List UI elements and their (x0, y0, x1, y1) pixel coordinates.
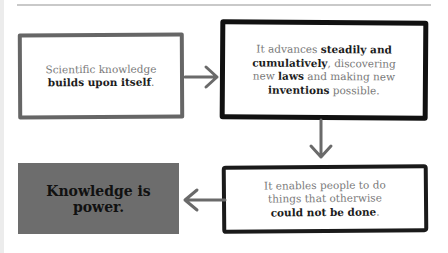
box4-text-1: Knowledge is (46, 183, 151, 199)
box3-period: . (376, 205, 379, 217)
box1-bold: builds upon itself (48, 76, 151, 89)
flow-box-knowledge-is-power: Knowledge is power. (18, 163, 179, 234)
box4-text-2: power. (73, 199, 124, 215)
box2-text-1: It advances (256, 43, 321, 55)
box2-bold-1: steadily and (321, 43, 392, 55)
box1-period: . (151, 76, 154, 88)
arrow-right-icon (184, 64, 220, 90)
flow-box-advances: It advances steadily and cumulatively, d… (220, 19, 429, 120)
box2-text-2: , discovering (327, 57, 395, 69)
box2-bold-3: laws (278, 70, 304, 82)
page-edge (0, 0, 4, 253)
box2-text-4: and making new (304, 70, 395, 83)
top-rule-divider (17, 4, 431, 6)
box1-text: Scientific knowledge (45, 62, 156, 75)
box2-bold-4: inventions (268, 83, 330, 95)
box3-text-2: things that otherwise (268, 192, 382, 205)
box2-bold-2: cumulatively (252, 56, 327, 69)
box3-bold: could not be done (271, 205, 377, 218)
box2-text-5: possible. (329, 84, 379, 96)
box2-text-3: new (253, 70, 278, 82)
box3-text-1: It enables people to do (264, 178, 386, 191)
arrow-down-icon (306, 119, 336, 161)
flow-box-enables: It enables people to do things that othe… (222, 164, 429, 234)
flow-box-knowledge-builds: Scientific knowledge builds upon itself. (18, 33, 184, 120)
arrow-left-icon (182, 186, 226, 214)
